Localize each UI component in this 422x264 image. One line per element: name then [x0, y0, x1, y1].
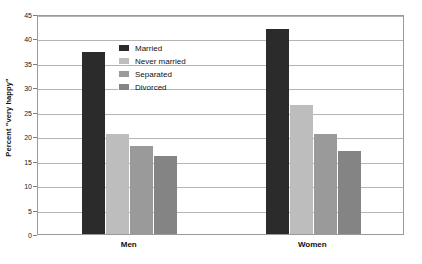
legend-label: Separated	[135, 70, 172, 79]
legend-item-divorced: Divorced	[118, 81, 186, 93]
bar-separated-men	[130, 146, 153, 234]
bar-divorced-women	[338, 151, 361, 234]
gridline	[38, 40, 403, 41]
legend-swatch-icon	[118, 83, 130, 91]
legend-label: Divorced	[135, 83, 167, 92]
y-tick-label: 5	[10, 207, 32, 214]
legend-label: Married	[135, 44, 162, 53]
gridline	[38, 16, 403, 17]
legend-swatch-icon	[118, 57, 130, 65]
x-axis-label-women: Women	[298, 240, 327, 249]
legend: MarriedNever marriedSeparatedDivorced	[118, 42, 186, 93]
y-tick-label: 0	[10, 232, 32, 239]
legend-item-married: Married	[118, 42, 186, 54]
bar-never-married-men	[106, 134, 129, 234]
y-tick-label: 10	[10, 183, 32, 190]
bar-married-men	[82, 52, 105, 234]
legend-label: Never married	[135, 57, 186, 66]
y-tick-label: 15	[10, 158, 32, 165]
y-tick-mark	[33, 235, 37, 236]
y-tick-label: 20	[10, 134, 32, 141]
bar-separated-women	[314, 134, 337, 234]
legend-swatch-icon	[118, 70, 130, 78]
y-tick-label: 25	[10, 109, 32, 116]
bar-divorced-men	[154, 156, 177, 234]
bar-chart: Percent "very happy" 051015202530354045 …	[0, 0, 422, 264]
legend-item-never-married: Never married	[118, 55, 186, 67]
y-tick-label: 30	[10, 85, 32, 92]
plot-area	[37, 15, 404, 235]
y-tick-label: 40	[10, 36, 32, 43]
bar-married-women	[266, 29, 289, 234]
bar-never-married-women	[290, 105, 313, 234]
legend-item-separated: Separated	[118, 68, 186, 80]
x-axis-label-men: Men	[121, 240, 137, 249]
y-tick-label: 45	[10, 12, 32, 19]
y-tick-label: 35	[10, 60, 32, 67]
legend-swatch-icon	[118, 44, 130, 52]
